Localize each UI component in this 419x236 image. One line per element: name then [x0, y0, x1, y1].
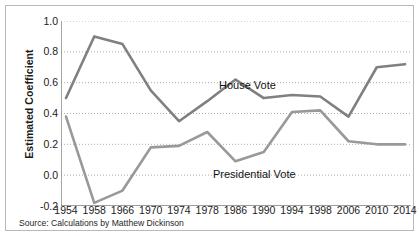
series-line-presidential-vote [66, 110, 405, 203]
y-axis-tick-labels: 1.00.80.60.40.20.0-0.2 [20, 21, 58, 206]
y-tick-label: 0.2 [24, 139, 58, 150]
x-tick-label: 1978 [196, 204, 219, 216]
x-tick-label: 2014 [393, 204, 416, 216]
y-tick-label: 0.0 [24, 170, 58, 181]
x-tick-label: 1994 [280, 204, 303, 216]
y-tick-label: 0.6 [24, 77, 58, 88]
x-tick-label: 1986 [224, 204, 247, 216]
series-annotation-presidential-vote: Presidential Vote [213, 168, 296, 180]
y-tick-label: 0.4 [24, 108, 58, 119]
source-caption: Source: Calculations by Matthew Dickinso… [19, 218, 184, 228]
chart-frame: Estimated Coefficient 1.00.80.60.40.20.0… [5, 5, 414, 231]
x-tick-label: 1990 [252, 204, 275, 216]
x-tick-label: 1966 [111, 204, 134, 216]
x-tick-label: 1958 [83, 204, 106, 216]
y-tick-label: 1.0 [24, 16, 58, 27]
x-tick-label: 1954 [54, 204, 77, 216]
y-tick-label: -0.2 [24, 201, 58, 212]
x-tick-label: 1998 [309, 204, 332, 216]
x-tick-label: 2010 [365, 204, 388, 216]
x-tick-label: 2006 [337, 204, 360, 216]
series-annotation-house-vote: House Vote [219, 79, 276, 91]
x-tick-label: 1974 [167, 204, 190, 216]
plot-area: House Vote Presidential Vote [61, 21, 411, 206]
y-tick-label: 0.8 [24, 46, 58, 57]
x-tick-label: 1970 [139, 204, 162, 216]
chart-figure: Estimated Coefficient 1.00.80.60.40.20.0… [0, 0, 419, 236]
